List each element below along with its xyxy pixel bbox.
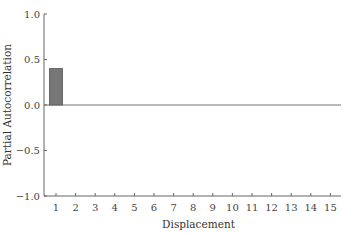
x-tick-label: 9 [210, 202, 216, 213]
x-tick-label: 15 [324, 202, 337, 213]
x-axis-label: Displacement [162, 218, 236, 230]
y-tick-label: 0.0 [24, 100, 40, 111]
x-tick-label: 1 [53, 202, 59, 213]
y-tick-label: −0.5 [16, 145, 40, 156]
x-tick-label: 8 [190, 202, 196, 213]
x-tick-label: 4 [112, 202, 118, 213]
x-tick-label: 13 [285, 202, 298, 213]
x-tick-label: 3 [92, 202, 98, 213]
y-tick-label: 1.0 [24, 9, 40, 20]
pacf-bar-chart: 1.00.50.0−0.5−1.0123456789101112131415Di… [0, 0, 343, 234]
bar [50, 69, 63, 105]
x-tick-label: 5 [131, 202, 137, 213]
y-tick-label: 0.5 [24, 54, 40, 65]
x-tick-label: 11 [246, 202, 259, 213]
x-tick-label: 14 [304, 202, 317, 213]
y-axis-label: Partial Autocorrelation [1, 44, 13, 166]
x-tick-label: 12 [265, 202, 278, 213]
x-tick-label: 7 [170, 202, 176, 213]
y-tick-label: −1.0 [16, 191, 40, 202]
x-tick-label: 10 [226, 202, 239, 213]
x-tick-label: 2 [72, 202, 78, 213]
x-tick-label: 6 [151, 202, 157, 213]
